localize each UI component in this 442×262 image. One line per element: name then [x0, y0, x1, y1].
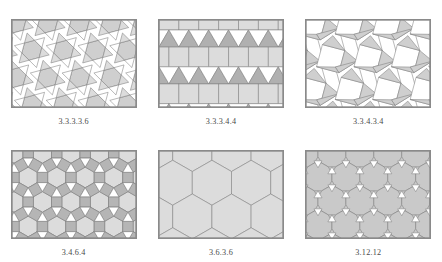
tiling-panel-trihexagonal [158, 150, 284, 239]
tiling-figure-snub-square [306, 20, 430, 107]
tiling-figure-truncated-hexagonal [306, 151, 430, 238]
tiling-cell-trihexagonal: 3.6.3.6 [147, 131, 294, 262]
tiling-cell-snub-hexagonal: 3.3.3.3.6 [0, 0, 147, 131]
tiling-caption-snub-square: 3.3.4.3.4 [353, 117, 383, 126]
tiling-cell-snub-square: 3.3.4.3.4 [295, 0, 442, 131]
tiling-figure-snub-hexagonal [12, 20, 136, 107]
tiling-panel-snub-hexagonal [11, 19, 137, 108]
tiling-caption-snub-hexagonal: 3.3.3.3.6 [58, 117, 88, 126]
tiling-figure-rhombitrihexagonal [12, 151, 136, 238]
tiling-panel-rhombitrihexagonal [11, 150, 137, 239]
tiling-figure-trihexagonal [159, 151, 283, 238]
tiling-caption-truncated-hexagonal: 3.12.12 [355, 248, 381, 257]
tiling-panel-truncated-hexagonal [305, 150, 431, 239]
tiling-cell-rhombitrihexagonal: 3.4.6.4 [0, 131, 147, 262]
tiling-cell-elongated-triangular: 3.3.3.4.4 [147, 0, 294, 131]
tiling-figure-elongated-triangular [159, 20, 283, 107]
tiling-panel-elongated-triangular [158, 19, 284, 108]
tiling-caption-trihexagonal: 3.6.3.6 [209, 248, 233, 257]
tiling-cell-truncated-hexagonal: 3.12.12 [295, 131, 442, 262]
tiling-panel-snub-square [305, 19, 431, 108]
tiling-caption-rhombitrihexagonal: 3.4.6.4 [62, 248, 86, 257]
tiling-caption-elongated-triangular: 3.3.3.4.4 [206, 117, 236, 126]
tiling-plate: 3.3.3.3.6 3.3.3.4.4 3.3.4.3.4 3.4.6.4 3.… [0, 0, 442, 262]
